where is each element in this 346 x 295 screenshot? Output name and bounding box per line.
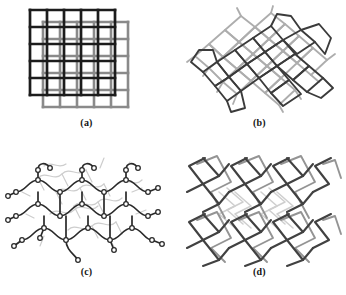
panel-b: (b) [173,0,346,148]
panel-b-artwork [173,0,346,118]
panel-d-artwork [173,148,346,268]
panel-c-label: (c) [0,266,173,277]
panel-c-artwork [0,148,173,268]
panel-a: (a) [0,0,173,148]
panel-a-artwork [0,0,173,118]
net-light-inclined-squares [187,6,335,112]
panel-d: (d) [173,148,346,295]
figure-panel-grid: (a) [0,0,346,295]
net-dark-inclined-squares [191,14,333,112]
net-front-bonds [8,164,162,260]
panel-a-label: (a) [0,117,173,128]
panel-c: (c) [0,148,173,295]
panel-d-label: (d) [173,266,346,277]
panel-b-label: (b) [173,117,346,128]
